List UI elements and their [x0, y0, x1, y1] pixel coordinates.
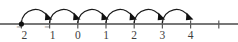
number-line-svg: ⁻2 ⁻1 0 1 2 3 4 — [0, 0, 238, 42]
hop-arc-1 — [21, 9, 48, 23]
tick-label-neg1: ⁻1 — [44, 23, 56, 41]
tick-label-neg2: ⁻2 — [16, 23, 28, 41]
tick-labels-group: ⁻2 ⁻1 0 1 2 3 4 — [16, 23, 194, 41]
number-line-figure: ⁻2 ⁻1 0 1 2 3 4 — [0, 0, 238, 42]
tick-label-0: 0 — [75, 29, 81, 41]
hop-arc-5 — [134, 9, 161, 23]
hop-arcs-group — [21, 9, 193, 23]
hop-arc-6 — [162, 9, 189, 23]
tick-label-3: 3 — [160, 29, 166, 41]
tick-label-4: 4 — [188, 29, 194, 41]
hop-arc-3 — [78, 9, 105, 23]
hop-arc-4 — [106, 9, 133, 23]
tick-label-1: 1 — [103, 29, 109, 41]
hop-arrowhead-6 — [186, 13, 194, 21]
tick-label-2: 2 — [131, 29, 137, 41]
hop-arc-2 — [50, 9, 77, 23]
